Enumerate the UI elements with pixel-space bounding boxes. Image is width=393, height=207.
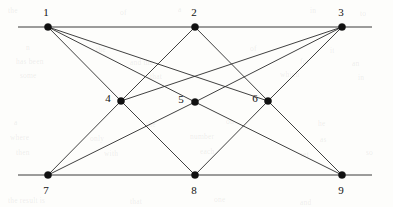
edge-1-5: [48, 27, 195, 102]
vertex-2[interactable]: [191, 23, 198, 30]
graph-diagram: theofaintontheofithas beenand theforanso…: [0, 0, 393, 207]
vertex-label-4: 4: [105, 92, 111, 104]
edge-3-4: [121, 27, 342, 101]
edge-5-7: [48, 102, 195, 175]
vertex-1[interactable]: [44, 23, 51, 30]
vertex-label-2: 2: [191, 6, 197, 18]
vertex-label-6: 6: [252, 92, 258, 104]
vertex-5[interactable]: [191, 98, 198, 105]
vertex-6[interactable]: [264, 97, 271, 104]
vertex-9[interactable]: [338, 171, 345, 178]
graph-canvas: 123456789: [0, 0, 393, 207]
edge-4-8: [121, 101, 195, 175]
edge-6-9: [268, 101, 342, 175]
edge-5-9: [195, 102, 342, 175]
vertex-label-8: 8: [191, 184, 197, 196]
vertex-label-3: 3: [338, 6, 344, 18]
edge-3-6: [268, 27, 342, 101]
vertex-label-5: 5: [178, 93, 184, 105]
vertex-8[interactable]: [191, 171, 198, 178]
edge-2-4: [121, 27, 195, 101]
edge-1-4: [48, 27, 121, 101]
vertex-4[interactable]: [117, 97, 124, 104]
edge-3-5: [195, 27, 342, 102]
vertex-label-9: 9: [338, 184, 344, 196]
vertex-3[interactable]: [338, 23, 345, 30]
vertex-7[interactable]: [44, 171, 51, 178]
vertex-label-7: 7: [43, 184, 49, 196]
vertex-label-1: 1: [43, 6, 49, 18]
edge-6-8: [195, 101, 268, 175]
edge-4-7: [48, 101, 121, 175]
vertex-group: [44, 23, 345, 178]
